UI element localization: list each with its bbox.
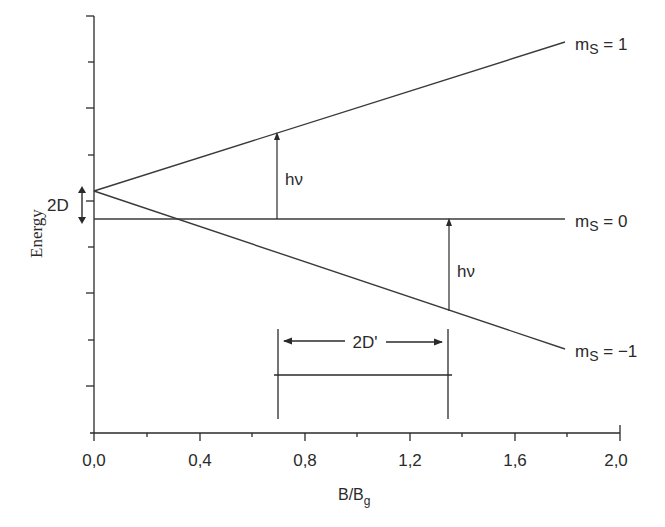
energy-level-diagram: 0,0 0,4 0,8 1,2 1,6 2,0 B/Bg Energy mS =… [0, 0, 665, 527]
line-ms-minus-1 [94, 191, 565, 349]
label-ms-minus-1: mS = −1 [575, 342, 637, 364]
y-axis-label: Energy [27, 209, 46, 258]
transition-label-1: hν [285, 170, 303, 189]
x-axis-label: B/Bg [338, 486, 370, 508]
x-tick-label: 0,0 [82, 451, 106, 470]
x-tick-label: 2,0 [604, 451, 628, 470]
x-axis [90, 425, 620, 441]
x-tick-label: 1,6 [503, 451, 527, 470]
label-ms-0: mS = 0 [575, 212, 627, 234]
x-tick-label: 0,4 [188, 451, 212, 470]
zero-field-splitting-arrow [78, 186, 86, 224]
x-tick-labels: 0,0 0,4 0,8 1,2 1,6 2,0 [82, 451, 628, 470]
zero-field-splitting-label: 2D [47, 196, 69, 215]
x-tick-label: 0,8 [293, 451, 317, 470]
x-tick-label: 1,2 [398, 451, 422, 470]
label-ms-plus-1: mS = 1 [575, 35, 627, 57]
line-ms-plus-1 [94, 42, 565, 191]
y-axis [86, 16, 94, 433]
resonance-separation-label: 2D' [353, 333, 378, 352]
transition-label-2: hν [457, 262, 475, 281]
